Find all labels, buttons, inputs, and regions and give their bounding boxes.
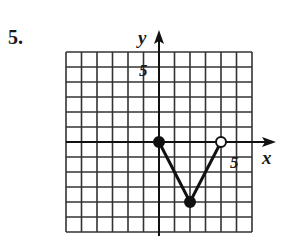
closed-point-icon: [185, 197, 195, 207]
open-point-icon: [216, 137, 226, 147]
y-axis-label: y: [136, 27, 147, 48]
closed-point-icon: [154, 137, 164, 147]
coordinate-graph: y x 5 5: [0, 0, 293, 242]
x-axis-label: x: [261, 147, 272, 168]
x-tick-5: 5: [230, 153, 239, 172]
y-tick-5: 5: [139, 61, 148, 80]
